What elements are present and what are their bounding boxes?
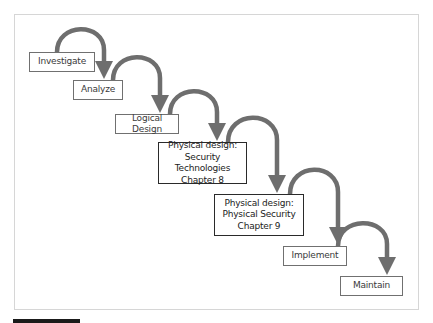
step-label-line-1: Physical design: [168, 140, 237, 152]
step-label-line-3: Chapter 9 [238, 221, 281, 233]
step-maintain: Maintain [340, 276, 403, 296]
step-logical-design: Logical Design [115, 114, 179, 134]
step-label: Implement [292, 250, 339, 262]
step-label: Logical Design [116, 113, 178, 136]
step-label: Investigate [38, 56, 86, 68]
step-investigate: Investigate [29, 52, 95, 72]
step-implement: Implement [283, 246, 347, 266]
step-label-line-1: Physical design: [224, 198, 293, 210]
step-label: Maintain [353, 280, 390, 292]
figure-caption-bar [13, 319, 80, 323]
step-physical-design-security-technologies: Physical design: Security Technologies C… [158, 142, 247, 184]
step-label-line-3: Chapter 8 [181, 175, 224, 187]
step-label-line-2: Physical Security [222, 209, 295, 221]
step-physical-design-physical-security: Physical design: Physical Security Chapt… [214, 194, 304, 236]
step-analyze: Analyze [73, 80, 123, 100]
step-label-line-2: Security Technologies [159, 152, 246, 175]
step-label: Analyze [81, 84, 115, 96]
